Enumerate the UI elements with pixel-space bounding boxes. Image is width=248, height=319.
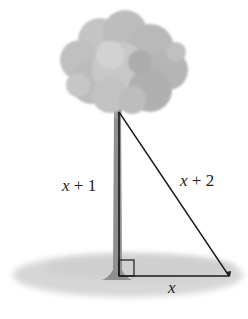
label-base: x [168, 278, 176, 298]
tree-trunk [102, 100, 132, 280]
label-rest: + 1 [70, 176, 97, 195]
label-rest: + 2 [188, 171, 215, 190]
hypotenuse-line [119, 112, 229, 276]
label-var: x [62, 176, 70, 195]
tree-foliage [60, 10, 188, 114]
label-hypotenuse: x + 2 [180, 171, 214, 191]
right-triangle [119, 112, 231, 277]
diagram-canvas: x + 1 x + 2 x [0, 0, 248, 319]
label-vertical-side: x + 1 [62, 176, 96, 196]
tree-triangle-illustration [0, 0, 248, 319]
label-var: x [168, 278, 176, 297]
label-var: x [180, 171, 188, 190]
